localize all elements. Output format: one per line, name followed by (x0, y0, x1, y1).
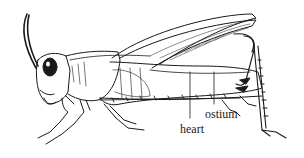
head (36, 53, 70, 104)
ostium-label: ostium (205, 108, 238, 120)
antenna (24, 14, 38, 68)
hind-leg (234, 34, 286, 138)
heart-label: heart (180, 123, 204, 135)
grasshopper-diagram (0, 0, 304, 158)
